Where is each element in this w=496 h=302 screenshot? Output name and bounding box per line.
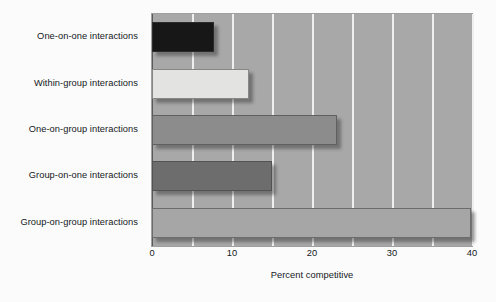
category-label-3: Group-on-one interactions	[0, 170, 138, 181]
bar-1	[152, 69, 249, 99]
x-tick-label-10: 10	[227, 248, 237, 258]
plot-area	[152, 14, 472, 246]
bar-series	[152, 14, 472, 246]
category-axis: One-on-one interactionsWithin-group inte…	[0, 14, 146, 246]
category-label-2: One-on-group interactions	[0, 124, 138, 135]
value-axis-title: Percent competitive	[152, 270, 472, 280]
bar-4	[152, 208, 471, 238]
x-tick-label-0: 0	[149, 248, 154, 258]
value-axis: 010203040	[152, 248, 472, 264]
category-label-1: Within-group interactions	[0, 78, 138, 89]
bar-2	[152, 115, 337, 145]
category-label-0: One-on-one interactions	[0, 31, 138, 42]
bar-0	[152, 22, 214, 52]
x-tick-label-40: 40	[467, 248, 477, 258]
chart-figure: One-on-one interactionsWithin-group inte…	[0, 0, 496, 302]
x-tick-label-20: 20	[307, 248, 317, 258]
category-label-4: Group-on-group interactions	[0, 217, 138, 228]
bar-3	[152, 161, 272, 191]
gridline-40	[472, 14, 474, 246]
x-tick-label-30: 30	[387, 248, 397, 258]
